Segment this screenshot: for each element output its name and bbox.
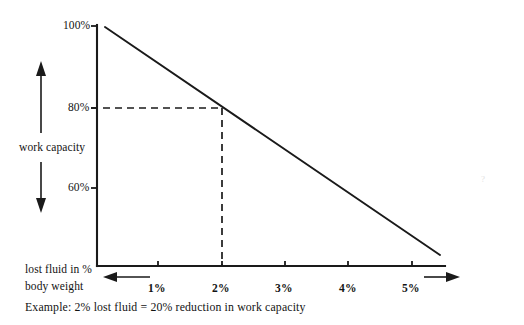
y-axis-label: work capacity: [19, 142, 85, 154]
y-axis-arrow-up-head: [36, 61, 46, 76]
scan-artifact-mark: ?: [481, 174, 485, 184]
chart-plot-area: [0, 0, 524, 325]
example-note: Example: 2% lost fluid = 20% reduction i…: [25, 302, 306, 314]
x-tick-label-1: 1%: [148, 283, 166, 295]
x-tick-label-2: 2%: [212, 283, 230, 295]
data-line-work-capacity: [105, 27, 440, 255]
x-tick-label-3: 3%: [275, 283, 293, 295]
x-tick-label-4: 4%: [339, 283, 357, 295]
y-tick-label-60: 60%: [68, 182, 89, 194]
x-axis-arrow-left-head: [103, 272, 117, 282]
x-axis-label-line2: body weight: [25, 281, 83, 293]
x-axis-label-line1: lost fluid in %: [25, 264, 92, 276]
chart-figure: 100% 80% 60% 1% 2% 3% 4% 5% work capacit…: [0, 0, 524, 325]
x-tick-label-5: 5%: [402, 283, 420, 295]
y-tick-label-100: 100%: [63, 20, 90, 32]
x-axis-arrow-right-head: [446, 272, 460, 282]
y-tick-label-80: 80%: [68, 102, 89, 114]
y-axis-arrow-down-head: [36, 198, 46, 213]
